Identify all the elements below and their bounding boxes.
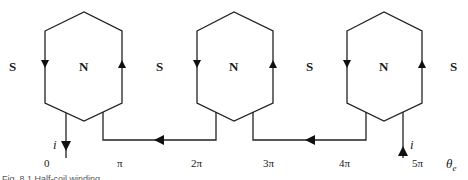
connector-1-2 xyxy=(103,112,216,140)
coil-2-right-arrow-up xyxy=(269,60,277,68)
angle-tick-2pi: 2π xyxy=(191,157,203,169)
coil-3-left-arrow-down xyxy=(343,60,351,68)
connector-1-2-arrow-left xyxy=(154,135,164,145)
connector-2-3 xyxy=(253,112,366,140)
axis-label-theta-sub: e xyxy=(452,163,456,173)
angle-tick-5pi: 5π xyxy=(412,157,424,169)
coil-1-right-arrow-up xyxy=(118,60,126,68)
coil-1 xyxy=(41,12,216,158)
coil-1-left-arrow-down xyxy=(41,60,49,68)
winding-diagram: S N S N S N S i i 0 π 2π 3π 4π 5π θe Fig… xyxy=(0,0,468,180)
output-current-label: i xyxy=(410,137,414,152)
pole-label-s-2: S xyxy=(156,59,163,74)
coil-3-right-arrow-up xyxy=(418,60,426,68)
connector-2-3-arrow-left xyxy=(305,135,315,145)
pole-label-n-3: N xyxy=(379,59,389,74)
coil-2-left-arrow-down xyxy=(193,60,201,68)
pole-label-n-2: N xyxy=(229,59,239,74)
input-current-arrow-down xyxy=(61,141,71,151)
output-current-arrow-up xyxy=(398,146,408,156)
pole-label-s-4: S xyxy=(450,59,457,74)
angle-tick-4pi: 4π xyxy=(339,157,351,169)
axis-label-theta: θe xyxy=(446,156,456,173)
angle-tick-pi: π xyxy=(117,157,123,169)
pole-label-n-1: N xyxy=(79,59,89,74)
pole-label-s-3: S xyxy=(306,59,313,74)
coil-2 xyxy=(193,12,366,145)
angle-tick-3pi: 3π xyxy=(263,157,275,169)
input-current-label: i xyxy=(53,137,57,152)
figure-caption: Fig. 8.1 Half-coil winding xyxy=(2,174,100,180)
angle-tick-0: 0 xyxy=(44,157,50,169)
pole-label-s-1: S xyxy=(9,59,16,74)
